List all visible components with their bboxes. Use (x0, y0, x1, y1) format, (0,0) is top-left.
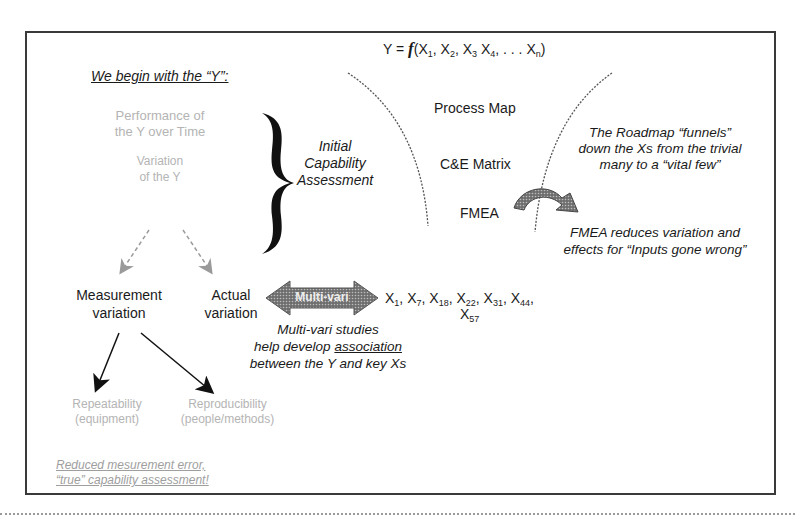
heading-begin-with-y: We begin with the “Y”: (91, 68, 228, 84)
funnel-item-process-map: Process Map (434, 100, 516, 116)
performance-over-time-label: Performance ofthe Y over Time (100, 108, 220, 140)
arrow-repeatability (96, 333, 119, 390)
multivari-note: Multi-vari studies help develop associat… (228, 321, 428, 372)
formula-term: X4, . . . (481, 41, 526, 57)
dashed-arrow-measurement (121, 230, 149, 272)
initial-capability-assessment-label: InitialCapabilityAssessment (290, 138, 380, 189)
variation-of-y-label: Variationof the Y (110, 153, 210, 185)
reproducibility-label: Reproducibility(people/methods) (170, 397, 285, 427)
multivari-arrow-label: Multi-vari (290, 290, 354, 304)
conclusion-note: Reduced mesurement error,“true” capabili… (56, 458, 209, 488)
formula-term: X3 (463, 41, 481, 57)
repeatability-label: Repeatability(equipment) (62, 397, 152, 427)
roadmap-note: The Roadmap “funnels”down the Xs from th… (560, 125, 760, 173)
funnel-item-fmea: FMEA (460, 205, 499, 221)
formula-term: X1, (418, 41, 440, 57)
formula: Y = f(X1, X2, X3 X4, . . . Xn) (383, 39, 545, 59)
arrow-reproducibility (141, 333, 212, 392)
funnel-item-ce-matrix: C&E Matrix (440, 156, 511, 172)
formula-term: X2, (441, 41, 463, 57)
actual-variation-label: Actualvariation (196, 286, 266, 322)
dashed-arrow-actual (183, 230, 211, 272)
fmea-curved-arrow (514, 189, 578, 212)
key-xs-list-line2: X57 (460, 306, 479, 322)
measurement-variation-label: Measurementvariation (64, 286, 174, 322)
formula-term: Xn (526, 41, 540, 57)
key-xs-list: X1, X7, X18, X22, X31, X44, (385, 290, 534, 306)
fmea-note: FMEA reduces variation andeffects for “I… (540, 224, 770, 258)
